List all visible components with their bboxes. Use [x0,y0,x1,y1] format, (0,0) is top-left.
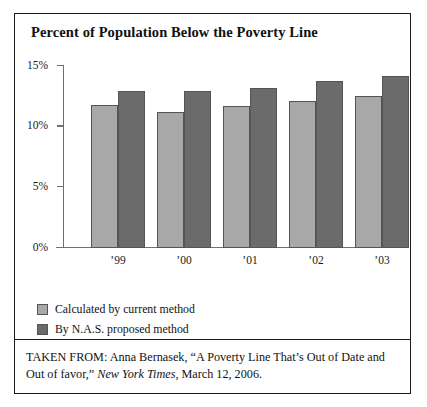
x-tick-label-3: ’02 [308,254,323,266]
legend-label: Calculated by current method [55,302,195,317]
bar-group: ’99 [91,66,145,248]
y-tick-label-0: 0% [33,240,48,252]
caption-divider [15,339,410,340]
legend-item: By N.A.S. proposed method [37,321,195,338]
x-tick-label-2: ’01 [242,254,257,266]
chart-plot-area: 0%5%10%15% ’99’00’01’02’03 [63,66,393,248]
legend-swatch-icon [37,304,48,315]
bar [184,91,211,248]
source-caption: TAKEN FROM: Anna Bernasek, “A Poverty Li… [26,349,401,383]
page-title: Percent of Population Below the Poverty … [31,24,318,41]
bar [316,81,343,248]
bar [91,105,118,248]
y-tick-2: 10% [57,125,64,126]
y-tick-0: 0% [57,247,64,248]
bar [355,96,382,248]
caption-publication: New York Times [97,367,175,381]
y-tick-label-1: 5% [33,180,48,192]
figure-frame: Percent of Population Below the Poverty … [14,13,411,394]
legend-swatch-icon [37,324,48,335]
chart-legend: Calculated by current methodBy N.A.S. pr… [37,301,195,341]
y-tick-label-2: 10% [27,119,48,131]
bar [118,91,145,248]
legend-label: By N.A.S. proposed method [55,322,189,337]
bar-group: ’03 [355,66,409,248]
bar [382,76,409,248]
bar-group: ’02 [289,66,343,248]
bar-group: ’00 [157,66,211,248]
bar [289,101,316,248]
x-tick-label-0: ’99 [110,254,125,266]
x-tick-label-1: ’00 [176,254,191,266]
bar [157,112,184,248]
bar-group: ’01 [223,66,277,248]
y-tick-label-3: 15% [27,58,48,70]
y-tick-3: 15% [57,65,64,66]
bar [250,88,277,248]
legend-item: Calculated by current method [37,301,195,318]
x-tick-label-4: ’03 [374,254,389,266]
y-axis-line [63,66,64,248]
caption-suffix: , March 12, 2006. [175,367,262,381]
bar [223,106,250,248]
y-tick-1: 5% [57,186,64,187]
